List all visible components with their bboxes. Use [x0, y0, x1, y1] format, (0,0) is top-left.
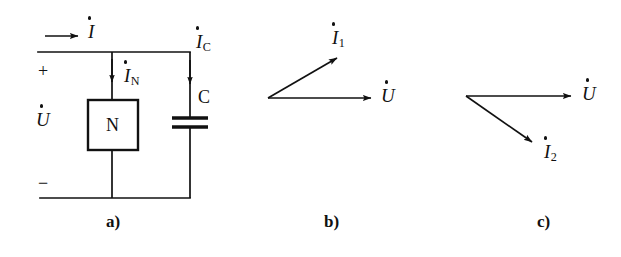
- circuit-diagram: [38, 36, 208, 198]
- terminal-plus: +: [38, 62, 48, 80]
- network-block-label: N: [106, 116, 119, 134]
- capacitor-current-symbol: I: [196, 31, 202, 52]
- phasor-c-current-symbol: I: [544, 141, 550, 162]
- capacitor-current-label: IC: [196, 32, 211, 54]
- figure-sheet: I + U − N IN IC C I1 U U I2 a) b) c): [0, 0, 621, 257]
- phasor-diagram-c: [466, 96, 571, 142]
- phasor-c-current-vector: [466, 96, 532, 142]
- phasor-b-current-subscript: 1: [339, 36, 345, 50]
- phasor-b-current-label: I1: [332, 28, 345, 50]
- network-current-symbol: I: [124, 65, 130, 86]
- phasor-b-current-symbol: I: [332, 27, 338, 48]
- voltage-label: U: [36, 110, 50, 129]
- phasor-diagram-b: [268, 58, 371, 98]
- voltage-symbol: U: [36, 109, 50, 130]
- phasor-c-voltage-symbol: U: [582, 83, 596, 104]
- phasor-b-current-vector: [268, 58, 337, 98]
- terminal-minus: −: [38, 174, 48, 192]
- phasor-c-voltage-label: U: [582, 84, 596, 103]
- phasor-b-voltage-symbol: U: [381, 85, 395, 106]
- source-current-label: I: [88, 22, 94, 41]
- network-current-subscript: N: [131, 74, 140, 88]
- caption-panel-b: b): [324, 212, 339, 232]
- caption-panel-c: c): [537, 212, 550, 232]
- network-current-label: IN: [124, 66, 140, 88]
- phasor-c-current-label: I2: [544, 142, 557, 164]
- capacitor-label: C: [198, 88, 210, 106]
- phasor-c-current-subscript: 2: [551, 150, 557, 164]
- caption-panel-a: a): [106, 212, 120, 232]
- phasor-b-voltage-label: U: [381, 86, 395, 105]
- source-current-symbol: I: [88, 21, 94, 42]
- capacitor-current-subscript: C: [203, 40, 211, 54]
